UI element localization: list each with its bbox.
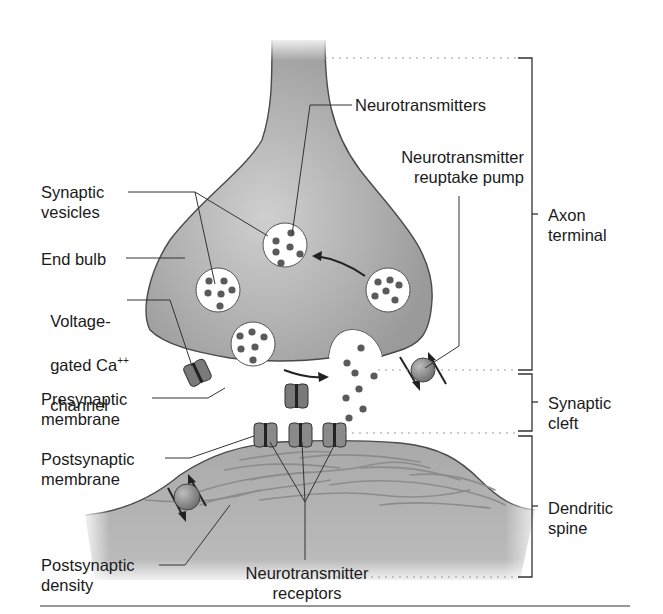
- label-synaptic-cleft: Synaptic cleft: [548, 393, 611, 433]
- label-reuptake-pump: Neurotransmitter reuptake pump: [362, 147, 524, 187]
- bracket-synaptic-cleft: [518, 374, 538, 431]
- synaptic-vesicle-top: [263, 223, 307, 267]
- label-dendritic-spine: Dendritic spine: [548, 498, 613, 538]
- label-axon-terminal: Axon terminal: [548, 205, 607, 245]
- synaptic-vesicle-right: [366, 268, 410, 312]
- voltage-gated-ca-channel: [182, 358, 212, 388]
- label-voltage-sup: ++: [117, 355, 129, 366]
- label-postsynaptic-membrane: Postsynaptic membrane: [41, 449, 135, 489]
- neurotransmitter-receptor-3: [323, 423, 346, 447]
- label-voltage-line1: Voltage-: [50, 312, 111, 330]
- bracket-axon-terminal: [518, 58, 538, 370]
- released-neurotransmitters: [342, 359, 377, 421]
- label-postsynaptic-density: Postsynaptic density: [41, 555, 135, 595]
- label-synaptic-vesicles: Synaptic vesicles: [41, 182, 104, 222]
- presynaptic-channel: [285, 384, 308, 408]
- label-end-bulb: End bulb: [41, 249, 106, 269]
- neurotransmitter-receptor-1: [254, 423, 277, 447]
- synaptic-vesicle-left: [196, 268, 240, 312]
- label-voltage-line2: gated Ca: [50, 356, 117, 374]
- neurotransmitter-receptor-2: [289, 423, 312, 447]
- label-neurotransmitters: Neurotransmitters: [355, 95, 486, 115]
- synaptic-vesicle-bottom: [231, 322, 275, 366]
- reuptake-pump: [400, 352, 446, 391]
- release-arrow: [284, 370, 329, 382]
- label-presynaptic-membrane: Presynaptic membrane: [41, 389, 127, 429]
- label-neurotransmitter-receptors: Neurotransmitter receptors: [222, 563, 392, 603]
